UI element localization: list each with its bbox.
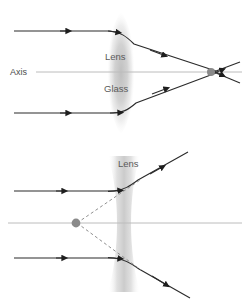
virtual-focal-point-dot [72,219,81,228]
refracted-ray-lower-arrow-mid [152,88,168,94]
biconvex-lens-shape [108,12,135,134]
diverging-lens-panel: Lens [0,150,242,299]
axis-label: Axis [10,67,28,77]
converging-lens-panel: Axis Lens Glass [0,0,242,150]
diverged-ray-upper-arrow-exit [150,166,164,174]
refracted-ray-lower-arrow-entry [110,113,122,114]
diverging-ray-upper-after-focus [216,62,240,71]
real-focal-point-dot [207,68,215,76]
diverged-ray-lower-arrow-exit [152,276,168,286]
optics-figure: Axis Lens Glass [0,0,242,299]
biconcave-lens-shape [108,156,140,292]
refracted-ray-upper-arrow-mid [150,50,166,56]
glass-label: Glass [104,83,129,94]
lens-label-lower: Lens [118,158,139,169]
lens-label: Lens [105,51,126,62]
diverging-ray-lower-after-focus [216,73,240,83]
